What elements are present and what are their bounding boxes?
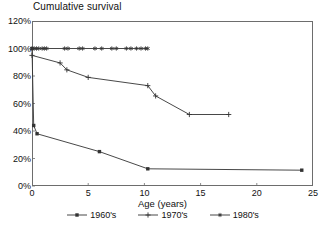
legend-item[interactable]: 1970's	[137, 210, 187, 220]
series-line	[32, 55, 229, 114]
chart-plot-svg	[0, 0, 325, 226]
data-point-marker	[35, 132, 38, 135]
x-axis-tick-label: 10	[139, 188, 149, 198]
x-axis-tick-label: 15	[196, 188, 206, 198]
x-axis-tick-label: 5	[86, 188, 91, 198]
legend-item-label: 1970's	[161, 210, 187, 220]
legend-item-label: 1980's	[233, 210, 259, 220]
legend-item-label: 1960's	[90, 210, 116, 220]
data-point-marker	[98, 150, 101, 153]
legend-marker-asterisk-icon	[209, 210, 231, 220]
data-point-marker	[146, 167, 149, 170]
x-axis-tick-label: 0	[29, 188, 34, 198]
legend-marker-plus-icon	[137, 210, 159, 220]
chart-legend: 1960's1970's1980's	[0, 210, 325, 220]
data-point-marker	[32, 124, 35, 127]
data-point-marker	[300, 168, 303, 171]
legend-item[interactable]: 1980's	[209, 210, 259, 220]
series-line	[32, 49, 302, 171]
legend-item[interactable]: 1960's	[66, 210, 116, 220]
x-axis-tick-label: 20	[252, 188, 262, 198]
chart-figure: Cumulative survival 0%20%40%60%80%100%12…	[0, 0, 325, 226]
x-axis-tick-label: 25	[308, 188, 318, 198]
legend-marker-filled-square-icon	[66, 210, 88, 220]
x-axis-title: Age (years)	[0, 198, 325, 209]
